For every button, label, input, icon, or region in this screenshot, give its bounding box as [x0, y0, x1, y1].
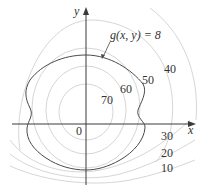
contour-label-20: 20 [161, 146, 173, 160]
origin-label: 0 [76, 124, 82, 138]
contour-label-10: 10 [161, 161, 173, 175]
contour-label-50: 50 [142, 73, 154, 87]
constraint-leader-line [103, 42, 110, 57]
y-axis-arrow-icon [83, 7, 89, 15]
constraint-label: g(x, y) = 8 [110, 28, 161, 42]
lagrange-contour-diagram: y x 0 g(x, y) = 8 70 60 50 40 30 20 10 [0, 0, 202, 188]
contour-label-70: 70 [101, 93, 113, 107]
constraint-label-text: g(x, y) = 8 [110, 28, 161, 42]
y-axis-label: y [73, 4, 80, 18]
contour-label-40: 40 [164, 62, 176, 76]
x-axis-label: x [187, 123, 194, 137]
constraint-curve [26, 55, 145, 170]
contour-label-30: 30 [161, 129, 173, 143]
contour-label-60: 60 [120, 82, 132, 96]
